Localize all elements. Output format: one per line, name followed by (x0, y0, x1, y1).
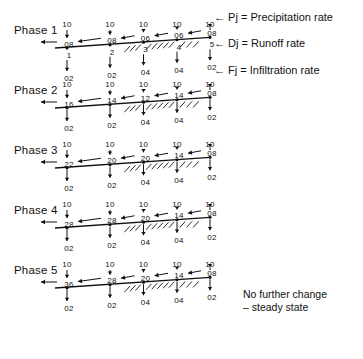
runoff-value-p2-c5: 08 (207, 88, 217, 97)
runoff-value-p4-c4: 14 (174, 211, 184, 220)
phase-label-1: Phase 1 (14, 24, 58, 36)
outflow-arrow-p1 (41, 40, 57, 45)
saturated-hatch-3-b (146, 162, 174, 170)
infiltration-value-p4-c3: 04 (141, 238, 151, 247)
saturated-hatch-1-c (180, 41, 199, 47)
precipitation-value-p3-c3: 10 (139, 140, 149, 149)
outflow-arrow-p3 (41, 160, 57, 165)
infiltration-arrow-p2-c4 (175, 102, 179, 113)
precipitation-arrow-p3-c3 (141, 149, 145, 152)
infiltration-value-p4-c2: 02 (107, 240, 117, 249)
precipitation-arrow-p4-c1 (65, 210, 69, 218)
column-index-1: 1 (67, 51, 71, 60)
runoff-value-p2-c1: 16 (64, 99, 74, 108)
saturated-hatch-1-b (146, 42, 174, 50)
runoff-arrow-p2-c3-to-c2 (121, 95, 135, 100)
runoff-value-p5-c5: 08 (207, 268, 217, 277)
legend-label-runoff: Runoff rate (251, 37, 305, 49)
saturated-hatch-5-c (180, 281, 199, 287)
infiltration-value-p2-c2: 02 (107, 120, 117, 129)
infiltration-value-p4-c5: 02 (207, 233, 217, 242)
column-index-3: 3 (143, 45, 147, 54)
infiltration-arrow-p2-c5 (208, 99, 212, 110)
precipitation-value-p5-c4: 10 (172, 260, 182, 269)
saturated-hatch-2-a (124, 105, 141, 113)
infiltration-value-p2-c3: 04 (141, 118, 151, 127)
ground-surface-line-3 (55, 157, 210, 168)
precipitation-value-p2-c5: 10 (205, 80, 215, 89)
legend-symbol-dj: Dj (228, 37, 238, 49)
precipitation-arrow-p5-c3 (141, 269, 145, 272)
legend-symbol-fj: Fj (228, 64, 237, 76)
infiltration-value-p3-c4: 04 (174, 175, 184, 184)
legend-item-precipitation: ← Pj = Precipitation rate (214, 11, 333, 23)
legend-arrow-icon: ← (214, 11, 225, 23)
runoff-arrow-p2-c5-to-c4 (188, 90, 201, 95)
precipitation-arrow-p2-c1 (65, 90, 69, 98)
precipitation-value-p5-c1: 10 (62, 260, 72, 269)
infiltration-arrow-p2-c3 (141, 104, 145, 115)
runoff-value-p3-c3: 20 (141, 153, 151, 162)
precipitation-arrow-p2-c3 (141, 89, 145, 92)
saturated-hatch-3-a (124, 165, 141, 173)
infiltration-value-p3-c1: 02 (64, 184, 74, 193)
infiltration-value-p5-c4: 04 (174, 295, 184, 304)
infiltration-value-p4-c1: 02 (64, 244, 74, 253)
diagram-canvas: Phase 1100810081006100610081234502020404… (0, 0, 363, 359)
runoff-value-p1-c4: 06 (174, 31, 184, 40)
infiltration-arrow-p3-c5 (208, 159, 212, 170)
runoff-arrow-p3-c3-to-c2 (121, 155, 135, 160)
precipitation-value-p1-c4: 10 (172, 20, 182, 29)
runoff-arrow-p3-c4-to-c3 (155, 153, 169, 158)
runoff-arrow-p4-c4-to-c3 (155, 213, 169, 218)
runoff-value-p3-c1: 22 (64, 159, 74, 168)
runoff-value-p4-c2: 28 (107, 216, 117, 225)
infiltration-arrow-p4-c1 (65, 230, 69, 241)
phase-label-2: Phase 2 (14, 84, 58, 96)
runoff-value-p1-c1: 08 (64, 39, 74, 48)
saturated-hatch-5-a (124, 285, 141, 293)
ground-surface-line-2 (55, 97, 210, 108)
legend-arrow-icon: ← (214, 37, 225, 49)
precipitation-arrow-p1-c2 (108, 30, 112, 35)
infiltration-value-p1-c4: 04 (174, 65, 184, 74)
runoff-arrow-p1-c5-to-c4 (188, 30, 201, 35)
precipitation-value-p4-c4: 10 (172, 200, 182, 209)
runoff-arrow-p5-c4-to-c3 (155, 273, 169, 278)
precipitation-value-p5-c2: 10 (105, 260, 115, 269)
infiltration-arrow-p3-c1 (65, 170, 69, 181)
precipitation-value-p5-c3: 10 (139, 260, 149, 269)
precipitation-value-p2-c2: 10 (105, 80, 115, 89)
phase-label-3: Phase 3 (14, 144, 58, 156)
precipitation-value-p1-c2: 10 (105, 20, 115, 29)
infiltration-value-p3-c5: 02 (207, 173, 217, 182)
column-index-2: 2 (110, 47, 114, 56)
precipitation-value-p1-c1: 10 (62, 20, 72, 29)
legend-symbol-pj: Pj (228, 11, 238, 23)
runoff-value-p5-c3: 20 (141, 273, 151, 282)
saturated-hatch-4-b (146, 222, 174, 230)
steady-state-note: No further change – steady state (243, 288, 327, 314)
precipitation-arrow-p3-c1 (65, 150, 69, 158)
infiltration-arrow-p4-c3 (141, 224, 145, 235)
legend-equals: = (241, 11, 247, 23)
infiltration-value-p2-c1: 02 (64, 124, 74, 133)
ground-surface-line-5 (55, 277, 210, 288)
infiltration-arrow-p3-c2 (108, 167, 112, 178)
infiltration-value-p3-c3: 04 (141, 178, 151, 187)
infiltration-arrow-p5-c5 (208, 279, 212, 290)
precipitation-arrow-p5-c1 (65, 270, 69, 278)
runoff-arrow-p5-c3-to-c2 (121, 275, 135, 280)
legend-item-infiltration: ← Fj = Infiltration rate (214, 64, 320, 76)
runoff-arrow-p1-c2-to-c1 (78, 38, 101, 43)
legend-label-precipitation: Precipitation rate (250, 11, 333, 23)
runoff-value-p4-c3: 20 (141, 213, 151, 222)
precipitation-value-p2-c3: 10 (139, 80, 149, 89)
saturated-hatch-3-c (180, 161, 199, 167)
precipitation-value-p3-c1: 10 (62, 140, 72, 149)
runoff-arrow-p1-c3-to-c2 (121, 35, 135, 40)
outflow-arrow-p4 (41, 220, 57, 225)
infiltration-arrow-p1-c3 (141, 54, 145, 65)
runoff-arrow-p2-c4-to-c3 (155, 93, 169, 98)
legend-equals: = (240, 64, 246, 76)
